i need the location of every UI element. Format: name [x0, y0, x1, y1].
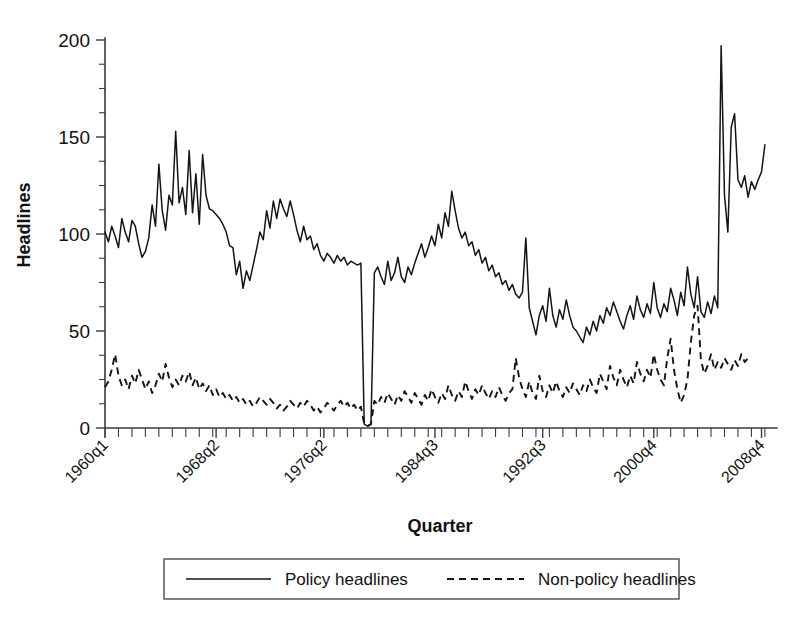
x-axis-title-group: Quarter — [407, 516, 472, 536]
x-axis-title: Quarter — [407, 516, 472, 536]
y-axis-title: Headlines — [14, 182, 34, 267]
x-tick-label-1968q2: 1968q2 — [172, 436, 222, 486]
legend-label-policy-headlines: Policy headlines — [285, 570, 408, 589]
chart-legend: Policy headlines Non-policy headlines — [164, 559, 696, 599]
x-tick-label-2008q4: 2008q4 — [718, 436, 768, 486]
y-tick-label-50: 50 — [69, 321, 90, 342]
x-tick-label-1960q1: 1960q1 — [61, 436, 111, 486]
chart-figure: Headlines 050100150200 1960q11968q21976q… — [0, 0, 805, 619]
y-tick-label-150: 150 — [58, 127, 90, 148]
data-series-group — [105, 46, 765, 426]
y-axis-ticks — [96, 40, 105, 428]
y-axis-tick-labels: 050100150200 — [58, 30, 90, 439]
y-tick-label-200: 200 — [58, 30, 90, 51]
x-axis-ticks — [105, 428, 765, 438]
series-line-policy-headlines — [105, 46, 765, 426]
y-axis-title-group: Headlines — [14, 182, 34, 267]
x-tick-label-1992q3: 1992q3 — [499, 436, 549, 486]
x-tick-label-1976q2: 1976q2 — [280, 436, 330, 486]
series-line-non-policy-headlines — [105, 306, 748, 426]
x-tick-label-1984q3: 1984q3 — [391, 436, 441, 486]
x-tick-label-2000q4: 2000q4 — [610, 436, 660, 486]
x-axis-tick-labels: 1960q11968q21976q21984q31992q32000q42008… — [61, 436, 767, 486]
headlines-time-series-chart: Headlines 050100150200 1960q11968q21976q… — [0, 0, 805, 619]
y-tick-label-0: 0 — [79, 418, 90, 439]
y-tick-label-100: 100 — [58, 224, 90, 245]
legend-label-non-policy-headlines: Non-policy headlines — [538, 570, 696, 589]
